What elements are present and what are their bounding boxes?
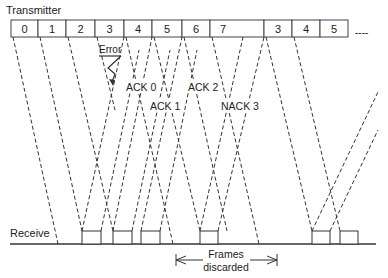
frames-discarded-line2: discarded — [203, 261, 249, 273]
receive-label: Receive — [10, 227, 50, 239]
ack0-label: ACK 0 — [126, 81, 157, 93]
nack3-label: NACK 3 — [221, 100, 259, 112]
transmitter-frame-2: 2 — [66, 20, 95, 37]
transmitter-frame-1: 1 — [38, 20, 66, 37]
transmitter-frame-8: 3 — [264, 20, 292, 37]
receiver-frame-box-1 — [113, 231, 132, 244]
transmitter-frame-label: 4 — [303, 23, 309, 35]
receiver-boxes — [82, 231, 358, 244]
receiver-frame-box-3 — [200, 231, 218, 244]
transmitter-frame-label: 5 — [164, 23, 170, 35]
transmitter-frame-7: 7 — [210, 20, 264, 37]
transmitter-frame-0: 0 — [11, 20, 38, 37]
continuation-dashes: ---- — [355, 27, 368, 38]
frames-discarded-indicator: Frames discarded — [176, 248, 277, 273]
arq-diagram: Transmitter 01234567345 ---- Error — [0, 0, 388, 278]
ack-labels: ACK 0 ACK 1 ACK 2 NACK 3 — [124, 80, 259, 112]
receiver-frame-box-5 — [340, 231, 358, 244]
transmitter-label: Transmitter — [6, 4, 62, 16]
frame-transmission-lines — [13, 37, 340, 244]
transmitter-frame-3: 3 — [95, 20, 124, 37]
transmitter-frame-label: 0 — [21, 23, 27, 35]
transmitter-frame-label: 3 — [106, 23, 112, 35]
transmitter-frame-label: 4 — [135, 23, 141, 35]
ack1-label: ACK 1 — [150, 100, 181, 112]
transmitter-frame-10: 5 — [320, 20, 348, 37]
receiver-frame-box-4 — [312, 231, 330, 244]
transmitter-frame-6: 6 — [182, 20, 210, 37]
transmitter-frame-5: 5 — [152, 20, 182, 37]
receiver-frame-box-2 — [141, 231, 160, 244]
error-label: Error — [99, 44, 122, 55]
transmitter-frame-label: 3 — [275, 23, 281, 35]
transmitter-frame-label: 5 — [331, 23, 337, 35]
error-marker: Error — [99, 44, 122, 86]
transmitter-frame-label: 2 — [77, 23, 83, 35]
transmitter-frame-9: 4 — [292, 20, 320, 37]
transmitter-frame-4: 4 — [124, 20, 152, 37]
transmitter-frame-label: 6 — [193, 23, 199, 35]
transmitter-frame-label: 7 — [220, 23, 226, 35]
receiver-frame-box-0 — [82, 231, 101, 244]
ack2-label: ACK 2 — [188, 81, 219, 93]
transmitter-frames: 01234567345 — [11, 20, 348, 37]
transmitter-frame-label: 1 — [49, 23, 55, 35]
frames-discarded-line1: Frames — [208, 248, 244, 260]
